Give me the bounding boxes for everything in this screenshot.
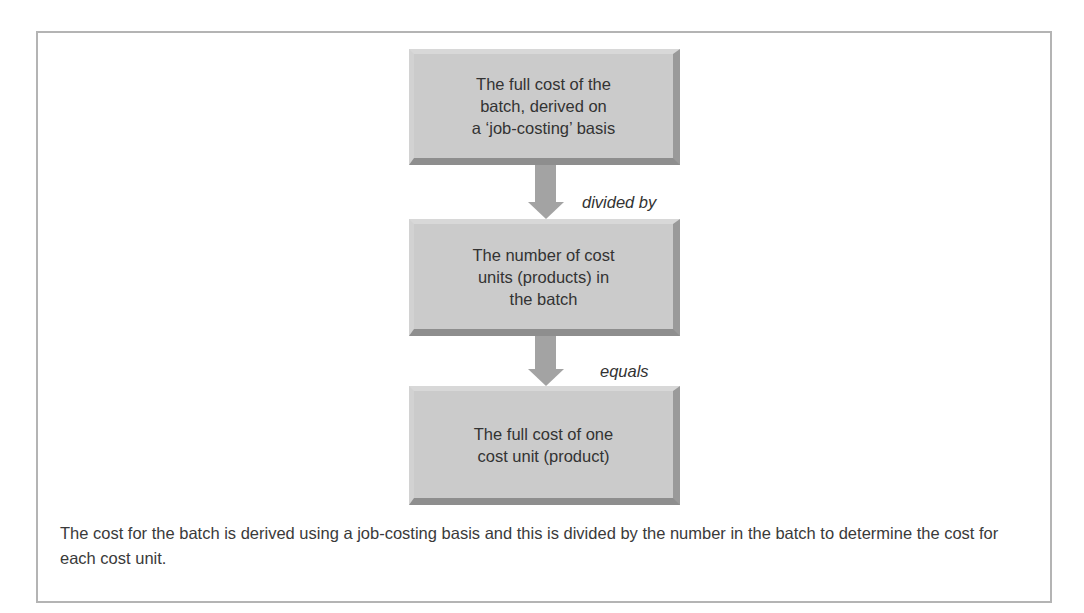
flow-box-unit-full-cost: The full cost of one cost unit (product) bbox=[409, 386, 680, 505]
connector-label-divided-by: divided by bbox=[582, 193, 656, 212]
flow-box-text: The full cost of the batch, derived on a… bbox=[472, 73, 615, 139]
flow-box-text: The number of cost units (products) in t… bbox=[472, 244, 614, 310]
arrow-shaft bbox=[535, 336, 556, 370]
arrow-head bbox=[528, 202, 564, 219]
figure-caption: The cost for the batch is derived using … bbox=[60, 521, 1030, 571]
flow-box-text: The full cost of one cost unit (product) bbox=[474, 423, 613, 467]
connector-label-equals: equals bbox=[600, 362, 649, 381]
flow-box-number-of-units: The number of cost units (products) in t… bbox=[409, 219, 680, 336]
arrow-shaft bbox=[535, 165, 556, 203]
flow-box-batch-full-cost: The full cost of the batch, derived on a… bbox=[409, 49, 680, 165]
down-arrow-icon bbox=[528, 165, 565, 220]
down-arrow-icon bbox=[528, 336, 565, 387]
arrow-head bbox=[528, 369, 564, 386]
